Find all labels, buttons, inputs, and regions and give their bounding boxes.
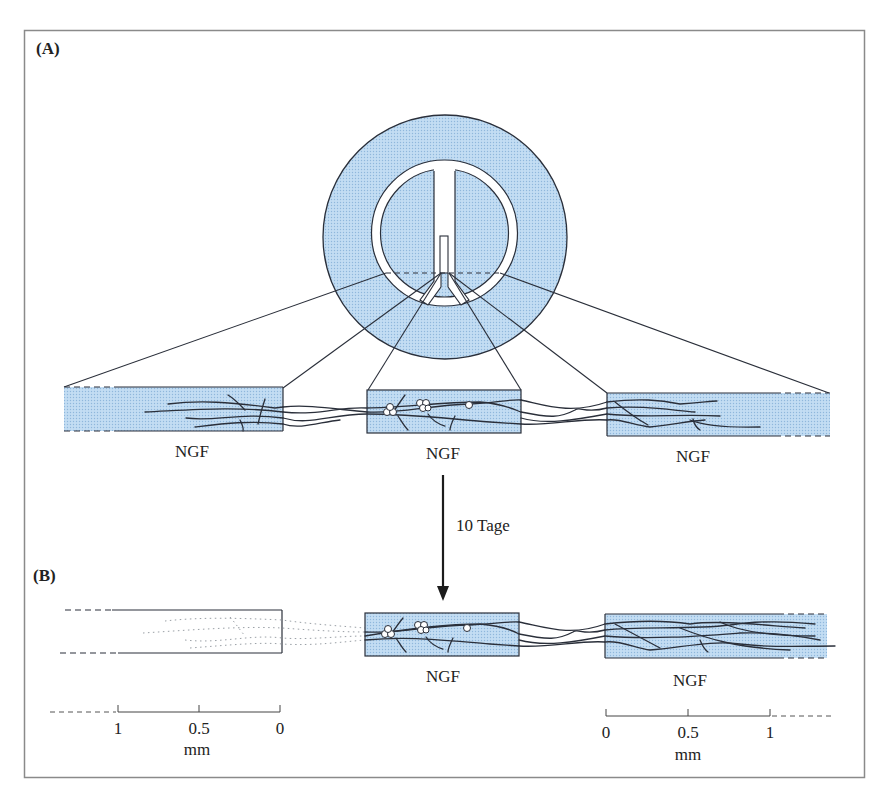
scale-left-tick-1: 1 <box>114 719 123 738</box>
scale-right-tick-3: 1 <box>766 723 775 742</box>
scale-bar-left <box>50 705 280 712</box>
ngf-label-b-center: NGF <box>426 667 460 686</box>
panel-b-compartment-left <box>60 610 365 653</box>
center-barrier <box>440 236 448 273</box>
scale-right-tick-1: 0 <box>602 723 611 742</box>
scale-bar-right <box>606 709 835 716</box>
campenot-chamber-figure: (A) (B) <box>0 0 885 798</box>
ngf-label-a-center: NGF <box>426 444 460 463</box>
panel-a-compartment-center <box>283 390 607 433</box>
arrow-label: 10 Tage <box>456 516 510 535</box>
scale-left-tick-3: 0 <box>276 719 285 738</box>
panel-b-compartment-right <box>605 614 835 658</box>
scale-left-unit: mm <box>184 740 210 759</box>
time-arrow <box>437 475 449 601</box>
panel-label-b: (B) <box>33 566 56 585</box>
panel-a-compartment-right <box>607 393 830 436</box>
scale-right-tick-2: 0.5 <box>677 723 698 742</box>
ngf-label-a-right: NGF <box>676 447 710 466</box>
panel-b-compartment-center <box>365 613 605 656</box>
scale-right-unit: mm <box>675 745 701 764</box>
panel-label-a: (A) <box>36 39 60 58</box>
scale-left-tick-2: 0.5 <box>188 719 209 738</box>
panel-a-compartment-left <box>64 387 283 431</box>
ngf-label-a-left: NGF <box>175 442 209 461</box>
ngf-label-b-right: NGF <box>673 671 707 690</box>
culture-dish <box>323 115 567 359</box>
